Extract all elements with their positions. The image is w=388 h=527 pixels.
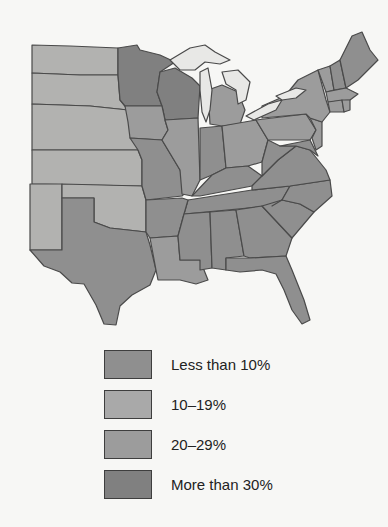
- legend-label: Less than 10%: [171, 356, 270, 373]
- state-florida: [226, 256, 310, 324]
- state-maine: [340, 32, 378, 88]
- legend-swatch: [104, 430, 152, 459]
- us-map: [0, 0, 388, 340]
- legend-item-10-19: 10–19%: [104, 384, 273, 424]
- state-iowa: [125, 106, 168, 140]
- map-legend: Less than 10% 10–19% 20–29% More than 30…: [104, 344, 273, 504]
- legend-label: More than 30%: [171, 476, 273, 493]
- state-connecticut: [328, 100, 344, 112]
- state-north-dakota: [32, 45, 118, 75]
- legend-swatch: [104, 470, 152, 499]
- legend-swatch: [104, 390, 152, 419]
- legend-label: 20–29%: [171, 436, 226, 453]
- lake-superior: [170, 45, 230, 70]
- legend-item-less-than-10: Less than 10%: [104, 344, 273, 384]
- legend-item-more-than-30: More than 30%: [104, 464, 273, 504]
- state-kansas: [32, 150, 142, 186]
- legend-label: 10–19%: [171, 396, 226, 413]
- legend-swatch: [104, 350, 152, 379]
- state-nebraska: [32, 104, 138, 150]
- state-rhode-island: [342, 100, 350, 112]
- legend-item-20-29: 20–29%: [104, 424, 273, 464]
- state-new-mexico: [30, 184, 62, 250]
